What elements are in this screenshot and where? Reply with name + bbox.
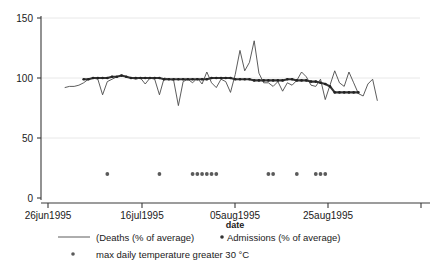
admissions-point	[206, 78, 209, 81]
admissions-point	[262, 79, 265, 82]
admissions-point	[258, 79, 261, 82]
admissions-point	[296, 79, 299, 82]
admissions-point	[310, 80, 313, 83]
admissions-point	[286, 78, 289, 81]
x-axis	[41, 203, 430, 208]
temperature-marker	[267, 172, 271, 176]
admissions-point	[314, 80, 317, 83]
admissions-point	[149, 77, 152, 80]
x-axis-title: date	[226, 220, 245, 230]
temperature-marker	[214, 172, 218, 176]
timeseries-chart: 150 100 50 0 26jun1995 16jul1995 05aug19…	[0, 0, 443, 271]
admissions-point	[134, 77, 137, 80]
admissions-point	[106, 77, 109, 80]
y-tick-label-150: 150	[16, 13, 33, 24]
admissions-point	[239, 78, 242, 81]
chart-root: 150 100 50 0 26jun1995 16jul1995 05aug19…	[0, 0, 443, 271]
legend-marker-admissions-dot	[220, 235, 224, 239]
admissions-point	[187, 78, 190, 81]
admissions-point	[120, 74, 123, 77]
admissions-point	[172, 78, 175, 81]
x-tick-label-4: 25aug1995	[303, 210, 353, 221]
admissions-point	[191, 78, 194, 81]
admissions-point	[248, 78, 251, 81]
admissions-point	[92, 77, 95, 80]
admissions-point	[139, 77, 142, 80]
legend-marker-temperature-dot	[71, 252, 75, 256]
admissions-point	[158, 77, 161, 80]
temperature-marker	[205, 172, 209, 176]
temperature-marker	[295, 172, 299, 176]
temperature-marker	[195, 172, 199, 176]
temperature-marker	[319, 172, 323, 176]
admissions-point	[357, 91, 360, 94]
admissions-point	[125, 76, 128, 79]
y-tick-label-50: 50	[22, 133, 34, 144]
temperature-marker	[314, 172, 318, 176]
admissions-point	[329, 85, 332, 88]
admissions-point	[352, 91, 355, 94]
series-temperature-markers	[105, 172, 327, 176]
admissions-point	[153, 77, 156, 80]
admissions-point	[229, 77, 232, 80]
admissions-point	[201, 78, 204, 81]
admissions-point	[177, 78, 180, 81]
temperature-marker	[200, 172, 204, 176]
admissions-point	[281, 79, 284, 82]
temperature-marker	[158, 172, 162, 176]
chart-legend: (Deaths (% of average) Admissions (% of …	[58, 232, 341, 260]
admissions-point	[348, 91, 351, 94]
y-tick-label-100: 100	[16, 73, 33, 84]
temperature-marker	[271, 172, 275, 176]
admissions-point	[291, 78, 294, 81]
admissions-point	[234, 78, 237, 81]
y-axis	[37, 16, 41, 200]
temperature-marker	[210, 172, 214, 176]
admissions-point	[116, 76, 119, 79]
admissions-point	[168, 78, 171, 81]
admissions-point	[338, 91, 341, 94]
admissions-point	[220, 77, 223, 80]
y-tick-label-0: 0	[27, 193, 33, 204]
admissions-point	[343, 91, 346, 94]
x-tick-label-1: 26jun1995	[25, 210, 72, 221]
legend-label-admissions: Admissions (% of average)	[227, 232, 341, 243]
admissions-point	[97, 77, 100, 80]
x-tick-label-2: 16jul1995	[120, 210, 164, 221]
admissions-point	[130, 77, 133, 80]
legend-label-temperature: max daily temperature greater 30 °C	[96, 249, 249, 260]
admissions-point	[215, 77, 218, 80]
admissions-point	[144, 77, 147, 80]
admissions-point	[272, 79, 275, 82]
admissions-point	[82, 78, 85, 81]
admissions-point	[210, 77, 213, 80]
series-deaths-line	[65, 41, 378, 106]
admissions-point	[243, 78, 246, 81]
temperature-marker	[105, 172, 109, 176]
temperature-marker	[323, 172, 327, 176]
admissions-point	[324, 83, 327, 86]
admissions-point	[87, 78, 90, 81]
admissions-point	[277, 79, 280, 82]
admissions-point	[267, 79, 270, 82]
admissions-point	[319, 82, 322, 85]
admissions-point	[305, 79, 308, 82]
legend-label-deaths: (Deaths (% of average)	[96, 232, 194, 243]
admissions-point	[253, 79, 256, 82]
admissions-point	[163, 78, 166, 81]
admissions-point	[101, 77, 104, 80]
admissions-point	[333, 91, 336, 94]
temperature-marker	[191, 172, 195, 176]
admissions-point	[224, 77, 227, 80]
admissions-point	[182, 78, 185, 81]
admissions-point	[196, 78, 199, 81]
admissions-point	[300, 79, 303, 82]
admissions-point	[111, 76, 114, 79]
